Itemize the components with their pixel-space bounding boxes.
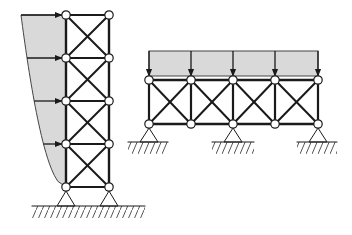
frame-supports xyxy=(128,128,337,154)
hinge-node xyxy=(105,11,113,19)
tower-truss xyxy=(66,15,109,187)
hinge-node xyxy=(62,183,70,191)
tower-supports xyxy=(32,191,145,218)
ground-hatch xyxy=(128,142,168,154)
hinge-node xyxy=(62,54,70,62)
hinge-node xyxy=(145,120,153,128)
ground-hatch xyxy=(297,142,337,154)
hinge-node xyxy=(314,76,322,84)
pin-support-icon xyxy=(57,191,75,206)
hinge-node xyxy=(271,76,279,84)
hinge-node xyxy=(105,183,113,191)
diagram-canvas xyxy=(0,0,352,235)
pin-support-icon xyxy=(100,191,118,206)
hinge-node xyxy=(314,120,322,128)
frame-distributed-load xyxy=(149,51,318,76)
hinge-node xyxy=(187,76,195,84)
hinge-node xyxy=(62,11,70,19)
pin-support-icon xyxy=(140,128,158,142)
hinge-node xyxy=(105,140,113,148)
ground-hatch xyxy=(212,142,254,154)
pin-support-icon xyxy=(309,128,327,142)
hinge-node xyxy=(145,76,153,84)
hinge-node xyxy=(187,120,195,128)
structural-diagram xyxy=(0,0,352,235)
ground-hatch xyxy=(32,206,145,218)
frame-truss xyxy=(149,80,318,124)
tower-lateral-load xyxy=(21,15,66,187)
pin-support-icon xyxy=(224,128,242,142)
hinge-node xyxy=(271,120,279,128)
hinge-node xyxy=(105,54,113,62)
hinge-node xyxy=(105,97,113,105)
hinge-node xyxy=(229,76,237,84)
hinge-node xyxy=(62,140,70,148)
hinge-node xyxy=(62,97,70,105)
hinge-node xyxy=(229,120,237,128)
